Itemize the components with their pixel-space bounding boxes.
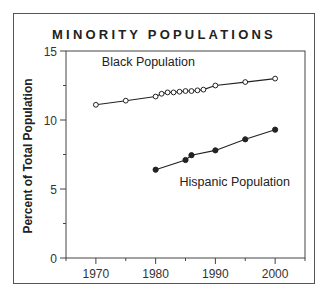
series-label: Black Population (102, 55, 195, 69)
x-tick-label: 1970 (83, 267, 110, 281)
data-point (213, 148, 218, 153)
x-tick-label: 2000 (262, 267, 289, 281)
data-point (183, 89, 188, 94)
data-point (123, 98, 128, 103)
data-point (153, 167, 158, 172)
series-label: Hispanic Population (180, 175, 291, 189)
data-point (159, 91, 164, 96)
data-point (243, 80, 248, 85)
plot-box (66, 51, 305, 258)
data-point (201, 87, 206, 92)
series-group: Black PopulationHispanic Population (93, 55, 290, 189)
data-point (243, 137, 248, 142)
y-tick-label: 15 (44, 45, 58, 59)
data-point (273, 76, 278, 81)
axes: 0510151970198019902000 (44, 45, 305, 281)
data-point (177, 89, 182, 94)
data-point (189, 153, 194, 158)
data-point (153, 94, 158, 99)
data-point (273, 127, 278, 132)
x-tick-label: 1990 (202, 267, 229, 281)
data-point (213, 83, 218, 88)
y-tick-label: 10 (44, 114, 58, 128)
data-point (195, 88, 200, 93)
data-point (171, 90, 176, 95)
y-tick-label: 0 (50, 252, 57, 266)
y-tick-label: 5 (50, 183, 57, 197)
x-tick-label: 1980 (142, 267, 169, 281)
data-point (93, 102, 98, 107)
data-point (165, 90, 170, 95)
data-point (189, 89, 194, 94)
data-point (183, 157, 188, 162)
plot-area: 0510151970198019902000 Black PopulationH… (0, 0, 328, 299)
